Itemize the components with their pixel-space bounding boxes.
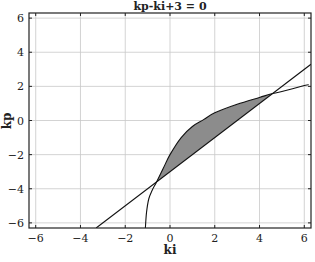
x-tick-label: −4 xyxy=(72,232,88,245)
x-tick-label: 4 xyxy=(256,232,263,245)
x-tick-label: 2 xyxy=(211,232,218,245)
y-tick-label: 4 xyxy=(17,46,24,59)
y-tick-label: −2 xyxy=(8,149,24,162)
chart-title: kp-ki+3 = 0 xyxy=(133,0,206,13)
y-tick-label: −4 xyxy=(8,183,24,196)
y-tick-label: 0 xyxy=(17,115,24,128)
grid-lines xyxy=(29,13,311,228)
x-tick-label: −2 xyxy=(117,232,133,245)
x-axis-label: ki xyxy=(164,243,177,257)
line-series xyxy=(96,64,311,228)
y-tick-label: 2 xyxy=(17,80,24,93)
x-tick-label: −6 xyxy=(28,232,44,245)
data-series xyxy=(96,64,311,228)
y-axis-label: kp xyxy=(0,113,14,130)
y-tick-label: 6 xyxy=(17,12,24,25)
x-tick-label: 6 xyxy=(301,232,308,245)
chart: kp-ki+3 = 0 −6−4−20246 −6−4−20246 ki kp xyxy=(0,0,315,262)
y-tick-label: −6 xyxy=(8,217,24,230)
